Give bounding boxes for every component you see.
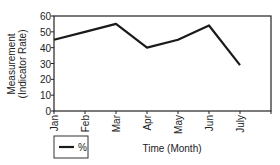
y-tick-label: 10 [40,90,52,101]
x-tick-label: Apr [142,114,153,130]
x-tick-label: Jun [204,115,215,131]
x-axis-ticks: JanFebMarAprMayJunJuly [49,111,271,134]
y-tick-label: 40 [40,43,52,54]
y-axis-ticks: 0102030405060 [40,11,54,117]
y-tick-label: 30 [40,59,52,70]
x-tick-label: Feb [80,115,91,133]
x-tick-label: Mar [111,114,122,132]
x-tick-label: Jan [49,115,60,131]
legend-label: % [78,142,87,153]
x-tick-label: May [173,115,184,134]
line-chart: Measurement(Indicator Rate) 010203040506… [0,0,280,165]
series-line [54,24,240,65]
y-axis-title-line: Measurement [6,33,17,94]
y-axis-title-line: (Indicator Rate) [17,30,28,99]
y-tick-label: 60 [40,11,52,22]
x-tick-label: July [235,115,246,133]
y-tick-label: 20 [40,74,52,85]
y-axis-title: Measurement(Indicator Rate) [6,30,28,99]
y-tick-label: 50 [40,27,52,38]
legend: % [54,136,88,158]
x-axis-title: Time (Month) [142,143,201,154]
